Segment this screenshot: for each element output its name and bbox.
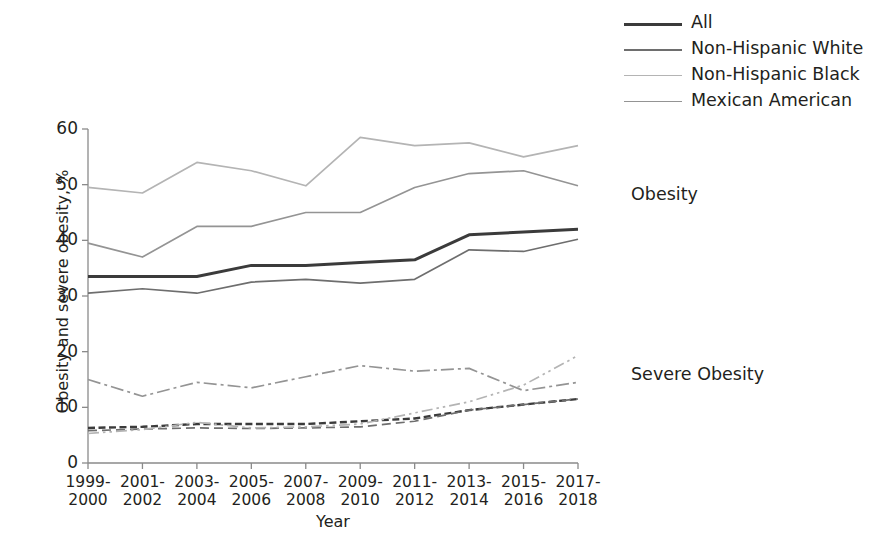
- series-line-obesity-mexican-american: [88, 171, 578, 257]
- chart-figure: All Non-Hispanic White Non-Hispanic Blac…: [0, 0, 869, 555]
- legend-item-non-hispanic-white[interactable]: Non-Hispanic White: [624, 36, 864, 62]
- axis-lines: [88, 129, 578, 463]
- legend-swatch-non-hispanic-white: [624, 42, 682, 56]
- legend-swatch-mexican-american: [624, 94, 682, 108]
- y-axis-ticks: [82, 129, 88, 463]
- legend-item-all[interactable]: All: [624, 10, 864, 36]
- legend-label-non-hispanic-white: Non-Hispanic White: [691, 40, 863, 58]
- y-tick-label-10: 10: [34, 396, 78, 416]
- y-tick-label-30: 30: [34, 285, 78, 305]
- legend-item-non-hispanic-black[interactable]: Non-Hispanic Black: [624, 62, 864, 88]
- x-tick-label-line: 2017-: [546, 473, 610, 491]
- series-line-obesity-non-hispanic-black: [88, 137, 578, 193]
- y-tick-label-40: 40: [34, 229, 78, 249]
- x-tick-label-9: 2017-2018: [546, 473, 610, 509]
- legend-swatch-non-hispanic-black: [624, 68, 682, 82]
- legend-label-non-hispanic-black: Non-Hispanic Black: [691, 66, 860, 84]
- annotation-severe-obesity: Severe Obesity: [631, 364, 764, 384]
- annotation-obesity: Obesity: [631, 184, 698, 204]
- series-line-obesity-all: [88, 229, 578, 276]
- series-line-severe-obesity-all: [88, 399, 578, 428]
- y-tick-label-0: 0: [34, 452, 78, 472]
- x-tick-label-line: 2018: [546, 491, 610, 509]
- y-tick-label-60: 60: [34, 118, 78, 138]
- legend-swatch-all: [624, 16, 682, 30]
- series-line-obesity-non-hispanic-white: [88, 239, 578, 293]
- legend-label-all: All: [691, 14, 713, 32]
- legend-item-mexican-american[interactable]: Mexican American: [624, 88, 864, 114]
- legend-label-mexican-american: Mexican American: [691, 92, 852, 110]
- x-axis-title: Year: [88, 512, 578, 531]
- y-tick-label-50: 50: [34, 174, 78, 194]
- chart-legend: All Non-Hispanic White Non-Hispanic Blac…: [624, 10, 864, 114]
- y-tick-label-20: 20: [34, 341, 78, 361]
- x-axis-ticks: [88, 463, 578, 469]
